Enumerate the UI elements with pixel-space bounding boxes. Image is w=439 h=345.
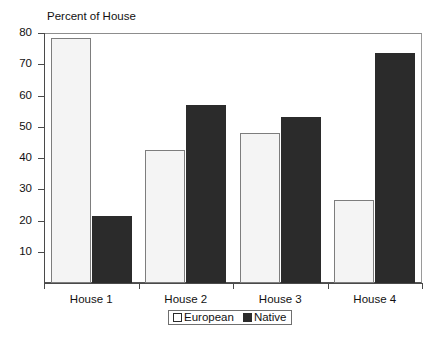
- x-tick-mark: [233, 283, 234, 289]
- legend-label-european: European: [184, 311, 234, 323]
- y-tick-label: 60: [6, 90, 32, 102]
- x-tick-label: House 3: [233, 293, 328, 306]
- y-tick-label: 20: [6, 215, 32, 227]
- x-tick-label: House 4: [328, 293, 423, 306]
- bar-native-house-2: [186, 105, 226, 283]
- chart-legend: European Native: [168, 310, 292, 325]
- bar-european-house-2: [145, 150, 185, 283]
- x-tick-mark: [422, 283, 423, 289]
- y-tick-mark: [38, 221, 45, 222]
- y-tick-label: 30: [6, 183, 32, 195]
- y-tick-label: 40: [6, 152, 32, 164]
- bar-european-house-1: [51, 38, 91, 283]
- y-tick-mark: [38, 158, 45, 159]
- bar-native-house-3: [281, 117, 321, 283]
- y-tick-label: 70: [6, 58, 32, 70]
- bar-european-house-4: [334, 200, 374, 283]
- y-tick-mark: [38, 33, 45, 34]
- legend-swatch-native-icon: [243, 313, 252, 322]
- y-tick-mark: [38, 96, 45, 97]
- y-tick-mark: [38, 127, 45, 128]
- x-tick-label: House 1: [44, 293, 139, 306]
- y-tick-mark: [38, 252, 45, 253]
- y-tick-label: 50: [6, 121, 32, 133]
- bar-native-house-4: [375, 53, 415, 283]
- x-tick-label: House 2: [139, 293, 234, 306]
- y-tick-label: 80: [6, 27, 32, 39]
- y-tick-label: 10: [6, 246, 32, 258]
- bar-european-house-3: [240, 133, 280, 283]
- legend-entry-european: European: [173, 311, 234, 323]
- y-tick-mark: [38, 189, 45, 190]
- x-tick-mark: [44, 283, 45, 289]
- chart-title: Percent of House: [47, 10, 136, 23]
- bar-native-house-1: [92, 216, 132, 283]
- legend-swatch-european-icon: [173, 313, 182, 322]
- legend-label-native: Native: [254, 311, 287, 323]
- legend-entry-native: Native: [243, 311, 287, 323]
- bar-chart: Percent of House 1020304050607080 House …: [0, 0, 439, 345]
- x-tick-mark: [139, 283, 140, 289]
- x-tick-mark: [328, 283, 329, 289]
- y-tick-mark: [38, 64, 45, 65]
